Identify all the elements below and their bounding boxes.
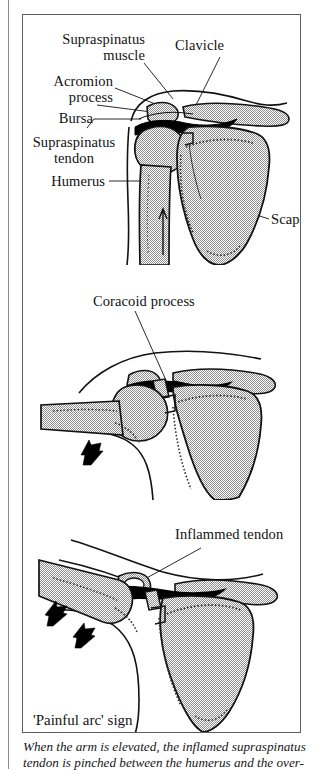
label-coracoid-process: Coracoid process [93, 293, 195, 309]
label-humerus: Humerus [22, 173, 105, 189]
figure-caption: When the arm is elevated, the inflamed s… [23, 739, 299, 770]
scapula-bone [177, 126, 269, 265]
page-edge-rule [8, 0, 9, 769]
label-supraspinatus-muscle: Supraspinatus muscle [22, 31, 145, 63]
humerus-shaft [139, 165, 171, 265]
label-acromion-process: Acromion process [22, 73, 113, 105]
panel-shoulder-abducted: Coracoid process [23, 265, 301, 500]
leader-line-inflamed-tendon [143, 548, 201, 580]
scapula-bone [173, 385, 261, 500]
label-scapula: Scapula [271, 211, 301, 227]
caption-line-2: tendon is pinched between the humerus an… [23, 755, 299, 770]
label-supraspinatus-tendon: Supraspinatus tendon [22, 134, 133, 166]
caption-line-1: When the arm is elevated, the inflamed s… [23, 739, 299, 755]
motion-arrow-1 [81, 440, 103, 465]
label-inflamed-tendon: Inflammed tendon [175, 526, 283, 542]
label-bursa: Bursa [22, 110, 93, 126]
panel-shoulder-neutral: Supraspinatus muscle Clavicle Acromion p… [23, 15, 301, 265]
humerus-shaft [41, 401, 123, 435]
figure-title: 'Painful arc' sign [33, 712, 133, 729]
panel-shoulder-inflamed: Inflammed tendon [23, 500, 301, 733]
motion-arrow-2 [73, 623, 95, 648]
clavicle-bone [183, 103, 289, 126]
scapula-bone [160, 596, 253, 732]
figure-frame: Supraspinatus muscle Clavicle Acromion p… [22, 14, 301, 733]
label-clavicle: Clavicle [175, 37, 224, 53]
